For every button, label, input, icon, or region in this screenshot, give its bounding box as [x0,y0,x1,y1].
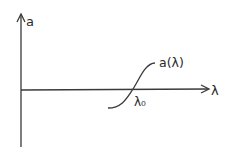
diagram-canvas: a λ a(λ) λ₀ [0,0,231,159]
y-axis-label: a [26,14,34,29]
y-axis [17,14,25,147]
x-axis [21,85,209,93]
curve-label: a(λ) [159,55,184,70]
x-axis-label: λ [211,83,219,98]
curve-a-of-lambda [108,63,155,108]
crossing-point-label: λ₀ [134,95,146,109]
